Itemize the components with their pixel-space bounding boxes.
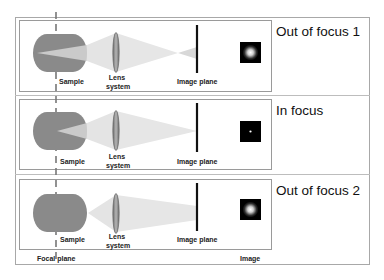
ray-cone-to-lens-1 xyxy=(87,33,116,72)
image-column-label: Image xyxy=(240,254,260,263)
lens-icon-3 xyxy=(113,194,119,234)
image-plane-label: Image plane xyxy=(177,77,217,86)
ray-diverge-1 xyxy=(178,47,197,59)
lens-label-line1: Lens xyxy=(106,152,128,161)
lens-label-line1: Lens xyxy=(106,232,128,241)
sample-label: Sample xyxy=(60,235,85,244)
ray-cone-to-lens-3 xyxy=(88,195,116,232)
state-label-out-of-focus-1: Out of focus 1 xyxy=(276,24,360,39)
ray-cone-after-lens-2 xyxy=(116,111,197,150)
blurred-spot-icon-1 xyxy=(243,45,259,61)
image-plane-label: Image plane xyxy=(177,157,217,166)
sample-label: Sample xyxy=(60,157,85,166)
ray-cone-after-lens-3 xyxy=(116,195,197,232)
lens-icon-2 xyxy=(113,111,119,151)
lens-label: Lens system xyxy=(106,152,128,170)
lens-label-line2: system xyxy=(106,161,128,170)
lens-label: Lens system xyxy=(106,232,128,250)
image-plane-label: Image plane xyxy=(177,235,217,244)
state-label-in-focus: In focus xyxy=(276,103,323,118)
lens-label-line1: Lens xyxy=(106,73,128,82)
lens-icon-1 xyxy=(113,33,119,73)
lens-label-line2: system xyxy=(106,241,128,250)
lens-label: Lens system xyxy=(106,73,128,91)
sample-label: Sample xyxy=(59,77,84,86)
sharp-point-icon xyxy=(249,130,251,132)
ray-cone-after-lens-1 xyxy=(116,33,178,72)
ray-cone-to-lens-2 xyxy=(87,111,116,150)
state-label-out-of-focus-2: Out of focus 2 xyxy=(276,183,360,198)
sample-cylinder-3 xyxy=(33,194,87,232)
focal-plane-label: Focal plane xyxy=(37,254,76,263)
lens-label-line2: system xyxy=(106,82,128,91)
blurred-spot-icon-3 xyxy=(243,202,259,218)
